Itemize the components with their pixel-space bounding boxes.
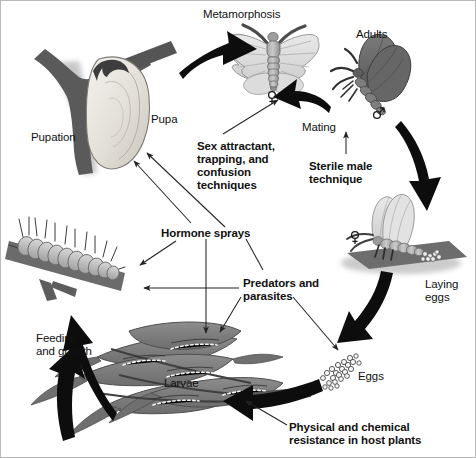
- label-pupa: Pupa: [151, 113, 177, 126]
- male-moth-illustration: [331, 34, 411, 116]
- label-sex-attractant-techniques: Sex attractant, trapping, and confusion …: [197, 140, 275, 192]
- arrow-upper-to-predators: [246, 239, 263, 270]
- feeding-caterpillar-illustration: [5, 217, 125, 301]
- label-larvae: Larvae: [164, 377, 199, 390]
- label-feeding-and-growth: Feeding and growth: [36, 332, 92, 358]
- label-hormone-sprays: Hormone sprays: [161, 227, 250, 240]
- arrow-hormone-caterpillar: [140, 241, 176, 265]
- female-laying-symbol: [352, 232, 359, 244]
- label-adults: Adults: [356, 28, 387, 41]
- label-pupation: Pupation: [31, 131, 76, 144]
- female-moth-illustration: [228, 25, 319, 95]
- label-sterile-male-technique: Sterile male technique: [309, 160, 372, 186]
- arrow-hormone-pupa-b: [134, 161, 191, 223]
- label-metamorphosis: Metamorphosis: [203, 8, 280, 21]
- arrow-sex-attractant: [223, 100, 278, 134]
- pupa-illustration: [34, 41, 177, 175]
- label-host-plant-resistance: Physical and chemical resistance in host…: [289, 421, 421, 447]
- label-laying-eggs: Laying eggs: [425, 278, 458, 304]
- egg-cluster-illustration: [321, 354, 362, 390]
- label-predators-and-parasites: Predators and parasites: [243, 277, 319, 303]
- life-cycle-diagram: Metamorphosis Adults Mating Pupa Pupatio…: [0, 0, 476, 458]
- label-mating: Mating: [302, 121, 336, 134]
- arrow-predators-eggs: [293, 297, 338, 350]
- label-eggs: Eggs: [358, 370, 384, 383]
- laying-eggs-illustration: [341, 194, 467, 274]
